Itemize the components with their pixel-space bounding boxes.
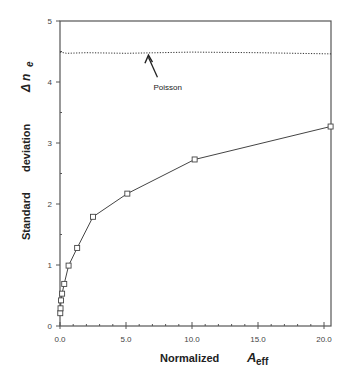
- data-point-marker: [91, 214, 96, 219]
- y-tick-label: 2: [48, 200, 53, 209]
- data-point-marker: [58, 311, 63, 316]
- y-axis-title-symbol: Δ n: [19, 74, 33, 93]
- data-point-marker: [328, 124, 333, 129]
- series-line-measured: [60, 127, 330, 314]
- y-tick-label: 5: [48, 17, 53, 26]
- data-point-marker: [62, 281, 67, 286]
- x-axis-title: Normalized A eff: [160, 350, 269, 367]
- x-tick-label: 20.0: [316, 335, 332, 344]
- data-point-marker: [125, 191, 130, 196]
- y-tick-label: 3: [48, 139, 53, 148]
- y-axis-title-word1: Standard: [20, 192, 32, 240]
- x-axis: 0.05.010.015.020.0: [54, 322, 332, 344]
- plot-border: [60, 21, 331, 326]
- data-point-marker: [66, 263, 71, 268]
- data-point-marker: [59, 298, 64, 303]
- y-tick-label: 0: [48, 322, 53, 331]
- chart: 012345 0.05.010.015.020.0 Poisson Normal…: [0, 0, 347, 382]
- y-axis-title-subscript: e: [24, 61, 35, 67]
- data-point-marker: [60, 291, 65, 296]
- data-point-marker: [75, 245, 80, 250]
- x-tick-label: 0.0: [54, 335, 66, 344]
- annotation-label: Poisson: [153, 83, 181, 92]
- annotation-arrow: [148, 57, 157, 77]
- y-tick-label: 1: [48, 261, 53, 270]
- x-tick-label: 10.0: [184, 335, 200, 344]
- x-tick-label: 5.0: [120, 335, 132, 344]
- annotation-layer: Poisson: [145, 55, 182, 92]
- y-axis-title: Standard deviation Δ n e: [19, 61, 35, 240]
- data-point-marker: [58, 306, 63, 311]
- x-axis-title-symbol: A: [246, 350, 256, 365]
- series-layer: [58, 52, 333, 316]
- y-tick-label: 4: [48, 78, 53, 87]
- plot-frame: [60, 21, 331, 326]
- y-axis-title-word2: deviation: [20, 123, 32, 172]
- x-axis-title-subscript: eff: [256, 356, 269, 367]
- series-line-poisson: [60, 52, 332, 54]
- x-axis-title-main: Normalized: [160, 352, 219, 364]
- x-tick-label: 15.0: [250, 335, 266, 344]
- data-point-marker: [192, 157, 197, 162]
